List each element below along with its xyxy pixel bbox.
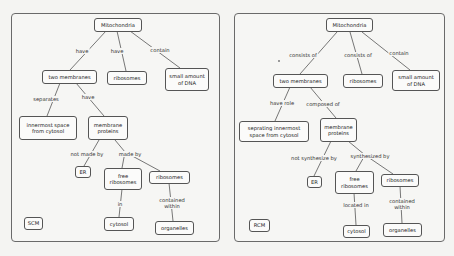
rcm-node-dna: small amount of DNA [392, 70, 440, 91]
scm-link-membranes-innermost: separates [32, 96, 60, 102]
scm-node-membrane-proteins: membrane proteins [88, 116, 128, 140]
scm-link-mito-membranes: have [75, 48, 90, 54]
rcm-node-free-ribosomes: free ribosomes [335, 171, 374, 194]
scm-link-ribosomes-organelles: contained within [158, 197, 186, 209]
scm-node-mitochondria: Mitochondria [94, 18, 142, 32]
rcm-node-ribosomes-top: ribosomes [343, 74, 383, 88]
stray-mark [278, 60, 280, 62]
rcm-link-ribosomes-organelles: contained within [388, 198, 416, 210]
scm-link-proteins-made-by: made by [118, 151, 143, 157]
scm-link-free-cytosol: in [117, 201, 124, 207]
scm-node-ribosomes-bottom: ribosomes [149, 171, 190, 184]
scm-link-mito-dna: contain [149, 47, 170, 53]
scm-node-two-membranes: two membranes [42, 70, 97, 84]
rcm-link-proteins-synthesized: synthesized by [350, 153, 391, 159]
scm-node-cytosol: cytosol [104, 217, 134, 231]
rcm-node-separating-innermost: seprating innermost space from cytosol [239, 121, 309, 142]
rcm-link-mito-dna: contain [388, 50, 409, 56]
rcm-node-mitochondria: Mitochondria [326, 18, 373, 32]
scm-map-tag: SCM [24, 217, 43, 230]
rcm-node-er: ER [307, 176, 322, 188]
rcm-node-ribosomes-bottom: ribosomes [381, 174, 419, 187]
scm-link-membranes-proteins: have [81, 94, 96, 100]
rcm-node-membrane-proteins: membrane proteins [320, 118, 357, 142]
rcm-link-membranes-innermost: have role [269, 100, 295, 106]
rcm-node-organelles: organelles [383, 223, 422, 237]
scm-node-er: ER [75, 166, 91, 178]
scm-node-innermost-space: innermost space from cytosol [19, 116, 77, 140]
scm-link-proteins-er: not made by [70, 151, 105, 157]
rcm-node-two-membranes: two membranes [273, 74, 328, 88]
scm-link-mito-ribosomes: have [110, 48, 125, 54]
rcm-link-membranes-proteins: composed of [305, 101, 340, 107]
rcm-link-proteins-er: not synthesize by [290, 155, 338, 161]
scm-node-dna: small amount of DNA [165, 68, 209, 91]
scm-node-organelles: organelles [155, 221, 194, 235]
scm-node-free-ribosomes: free ribosomes [104, 168, 142, 190]
rcm-link-free-cytosol: located in [342, 202, 370, 208]
scm-node-ribosomes-top: ribosomes [107, 71, 147, 85]
rcm-link-mito-ribosomes: consists of [343, 52, 373, 58]
rcm-map-tag: RCM [249, 219, 270, 232]
rcm-link-mito-membranes: consists of [288, 52, 318, 58]
rcm-node-cytosol: cytosol [343, 225, 370, 238]
